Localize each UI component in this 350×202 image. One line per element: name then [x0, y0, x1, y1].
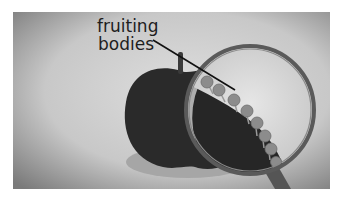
illustration-frame: fruiting bodies [13, 12, 330, 189]
label-line-1: fruiting [97, 16, 158, 36]
label-line-2: bodies [98, 34, 154, 54]
apple-magnifier-illustration: fruiting bodies [13, 12, 330, 189]
